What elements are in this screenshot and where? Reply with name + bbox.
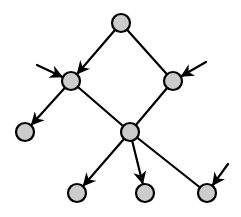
node-center xyxy=(121,123,139,141)
node-bottom-3 xyxy=(198,184,216,202)
node-left xyxy=(62,72,80,90)
node-top xyxy=(112,14,130,32)
node-bottom-1 xyxy=(68,184,86,202)
node-right xyxy=(164,72,182,90)
node-bottom-left xyxy=(16,123,34,141)
node-bottom-2 xyxy=(136,184,154,202)
edge-left-to-center xyxy=(71,81,130,132)
input-arrow-to-right xyxy=(182,62,206,76)
edge-center-to-bottom-1-arrow xyxy=(84,132,130,185)
graph-diagram xyxy=(0,0,241,217)
edges-group xyxy=(32,23,207,193)
input-arrow-to-left xyxy=(37,65,62,77)
input-arrow-to-bottom-3 xyxy=(213,164,228,185)
edge-top-to-right xyxy=(121,23,173,81)
